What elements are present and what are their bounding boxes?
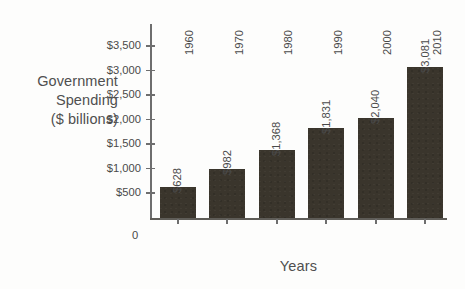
y-axis-tick	[146, 70, 155, 72]
y-axis-tick-label: $2,000	[71, 113, 141, 125]
y-axis-tick-label: $2,500	[71, 88, 141, 100]
bar-value-label: $628	[171, 168, 183, 193]
x-axis-line	[150, 218, 447, 220]
y-axis-tick-label: $1,000	[71, 162, 141, 174]
y-axis-tick-label: $500	[71, 186, 141, 198]
chart-page: Government Spending ($ billions) $500$1,…	[0, 0, 465, 289]
x-axis-title: Years	[150, 258, 447, 274]
y-axis-tick	[146, 143, 155, 145]
y-axis-tick	[146, 168, 155, 170]
x-axis-tick	[375, 219, 377, 224]
plot-area: $500$1,000$1,500$2,000$2,500$3,000$3,500…	[150, 24, 447, 220]
x-axis-tick-label: 1960	[183, 30, 195, 55]
bar	[407, 67, 443, 218]
y-axis-line	[150, 24, 152, 219]
bar	[358, 118, 394, 218]
y-axis-origin-label: 0	[132, 229, 138, 241]
x-axis-tick	[424, 219, 426, 224]
y-axis-tick	[146, 119, 155, 121]
x-axis-tick-label: 2010	[431, 30, 443, 55]
x-axis-tick	[177, 219, 179, 224]
x-axis-tick-label: 2000	[381, 30, 393, 55]
y-axis-tick	[146, 94, 155, 96]
x-axis-tick-label: 1990	[332, 30, 344, 55]
y-axis-tick	[146, 45, 155, 47]
bar	[209, 169, 245, 217]
y-axis-tick	[146, 192, 155, 194]
bar	[308, 128, 344, 218]
bar-value-label: $2,040	[369, 89, 381, 123]
x-axis-tick	[325, 219, 327, 224]
x-axis-tick-label: 1980	[282, 30, 294, 55]
bar-value-label: $1,368	[270, 122, 282, 156]
bar-value-label: $982	[221, 150, 233, 175]
y-axis-tick-label: $3,500	[71, 39, 141, 51]
y-axis-tick-label: $1,500	[71, 137, 141, 149]
x-axis-tick	[226, 219, 228, 224]
bar	[259, 150, 295, 217]
x-axis-tick	[276, 219, 278, 224]
y-axis-tick-label: $3,000	[71, 64, 141, 76]
bar-value-label: $1,831	[320, 100, 332, 134]
x-axis-tick-label: 1970	[233, 30, 245, 55]
bar-value-label: $3,081	[419, 38, 431, 72]
